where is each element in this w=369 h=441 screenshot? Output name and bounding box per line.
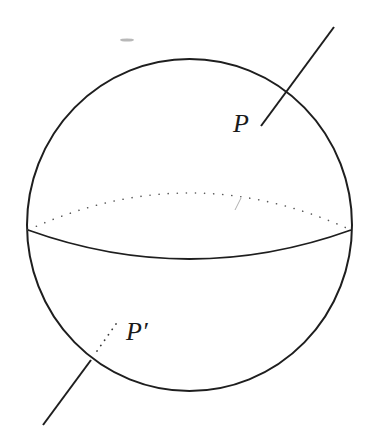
axis-line-hidden-dotted xyxy=(97,324,116,351)
label-point-p: P xyxy=(232,109,249,138)
sphere-diagram: P P′ xyxy=(0,0,369,441)
scan-smudge xyxy=(120,38,134,41)
scan-mark xyxy=(235,198,241,210)
sphere-outline xyxy=(27,59,352,391)
equator-back-dotted xyxy=(28,193,351,230)
label-point-p-prime: P′ xyxy=(125,317,148,346)
equator-front xyxy=(28,230,351,259)
axis-line-upper xyxy=(261,27,334,126)
axis-line-lower xyxy=(43,360,91,425)
